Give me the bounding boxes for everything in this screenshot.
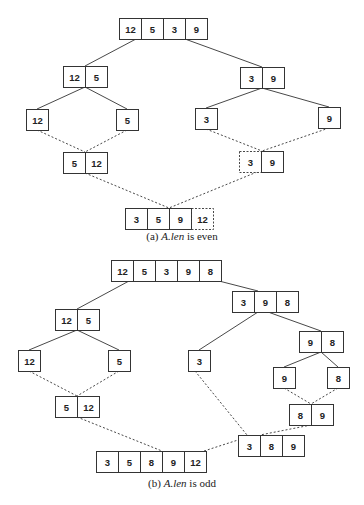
cell-value: 12 [190,457,201,468]
split-edge [77,330,119,350]
split-edge [185,39,262,67]
merge-edge [169,172,257,208]
cell-value: 3 [241,297,246,308]
array-node: 9 [274,368,296,389]
split-edge [77,281,129,309]
merge-edge [85,130,127,152]
cell-value: 9 [171,457,176,468]
split-edge [85,39,136,66]
cell-value: 5 [86,315,92,326]
caption-suffix: is even [184,230,218,242]
cell-value: 3 [164,266,169,277]
cell-value: 5 [94,72,100,83]
cell-value: 3 [204,114,209,125]
array-node: 89 [290,405,334,426]
array-node: 358912 [97,452,207,473]
array-node: 8 [328,368,350,389]
cell-value: 3 [197,356,202,367]
array-node: 5 [117,110,139,131]
merge-edge [77,417,162,451]
merge-sort-diagram: 1253912539125395123935912(a) A.len is ev… [0,0,364,505]
caption-variable: A.len [160,230,184,242]
cell-value: 8 [285,297,290,308]
cell-value: 9 [282,373,287,384]
array-node: 398 [233,292,299,313]
merge-edge [85,173,169,208]
merge-edge [204,440,238,451]
cell-value: 12 [24,356,35,367]
array-node: 39 [241,68,285,89]
cell-value: 12 [32,115,43,126]
array-node: 125 [64,67,108,88]
cell-value: 9 [186,266,191,277]
cell-value: 9 [270,157,275,168]
cell-value: 9 [327,113,332,124]
cell-value: 9 [263,297,268,308]
cell-value: 9 [178,214,183,225]
array-node: 125 [56,310,100,331]
cell-value: 12 [61,315,72,326]
cell-value: 8 [330,337,335,348]
caption-suffix: is odd [187,477,217,489]
merge-edge [260,425,311,435]
array-node: 5 [109,351,131,372]
cell-value: 9 [320,410,325,421]
split-edge [206,88,262,108]
cell-value: 5 [150,24,156,35]
split-edge [29,330,77,350]
cell-value: 9 [308,337,313,348]
cell-value: 5 [72,158,78,169]
array-node: 12539 [120,19,208,40]
cell-value: 3 [247,441,252,452]
merge-edge [206,129,262,151]
cell-value: 8 [269,441,274,452]
cell-value: 9 [194,24,199,35]
array-node: 3 [196,109,218,130]
array-node: 389 [239,436,305,457]
caption-prefix: (a) [146,230,161,243]
cell-value: 12 [91,158,102,169]
cell-value: 8 [149,457,154,468]
cell-value: 12 [197,214,208,225]
split-edge [268,312,321,331]
split-edge [321,352,338,367]
array-node: 12 [19,351,41,372]
cell-value: 5 [142,266,148,277]
cell-value: 3 [248,157,253,168]
cell-value: 5 [127,457,133,468]
array-node: 12 [27,110,49,131]
cell-value: 8 [298,410,303,421]
array-node: 98 [300,332,344,353]
cell-value: 3 [249,73,254,84]
merge-edge [37,130,85,152]
split-edge [262,88,329,107]
cell-value: 3 [105,457,110,468]
figure-caption: (b) A.len is odd [148,477,216,490]
cell-value: 12 [69,72,80,83]
cell-value: 9 [291,441,296,452]
figure-a-even-length: 1253912539125395123935912(a) A.len is ev… [27,19,341,244]
merge-edge [195,371,247,435]
cell-value: 12 [125,24,136,35]
array-node: 35912 [126,209,214,230]
split-edge [199,312,258,350]
array-node: 125398 [112,261,222,282]
cell-value: 5 [125,115,131,126]
merge-edge [29,371,77,396]
split-edge [37,87,85,109]
cell-value: 5 [64,402,70,413]
cell-value: 8 [208,266,213,277]
cell-value: 8 [336,373,341,384]
cell-value: 12 [83,402,94,413]
cell-value: 5 [117,356,123,367]
cell-value: 12 [117,266,128,277]
caption-variable: A.len [163,477,187,489]
caption-prefix: (b) [148,477,164,490]
array-node: 512 [64,153,108,174]
split-edge [284,352,321,367]
cell-value: 3 [134,214,139,225]
merge-edge [284,388,311,404]
cell-value: 9 [271,73,276,84]
array-node: 39 [240,152,284,173]
cell-value: 5 [156,214,162,225]
